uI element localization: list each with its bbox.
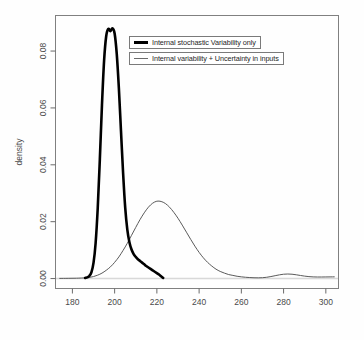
legend-label-2: Internal variability + Uncertainty in in… — [152, 54, 279, 63]
y-tick-label: 0.00 — [38, 270, 48, 287]
x-tick-label: 240 — [192, 297, 206, 307]
series-line-1 — [85, 28, 163, 278]
series-line-2 — [60, 201, 335, 278]
legend-line-sample-thick — [134, 41, 148, 43]
x-tick-label: 180 — [65, 297, 79, 307]
y-axis-title: density — [14, 138, 24, 166]
y-tick-label: 0.06 — [38, 99, 48, 116]
y-tick-label: 0.04 — [38, 156, 48, 173]
chart-figure: 1802002202402602803000.000.020.040.060.0… — [0, 0, 364, 340]
density-plot: 1802002202402602803000.000.020.040.060.0… — [0, 0, 364, 340]
legend-entry-internal-variability-plus-uncertainty[interactable]: Internal variability + Uncertainty in in… — [129, 52, 284, 65]
y-tick-label: 0.08 — [38, 43, 48, 60]
x-tick-label: 280 — [276, 297, 290, 307]
x-tick-label: 300 — [319, 297, 333, 307]
y-tick-label: 0.02 — [38, 213, 48, 230]
legend-line-sample-thin — [134, 58, 148, 59]
legend-entry-internal-stochastic-variability[interactable]: Internal stochastic Variability only — [129, 36, 261, 49]
x-tick-label: 220 — [150, 297, 164, 307]
x-tick-label: 200 — [108, 297, 122, 307]
x-tick-label: 260 — [234, 297, 248, 307]
legend-label-1: Internal stochastic Variability only — [152, 38, 256, 47]
